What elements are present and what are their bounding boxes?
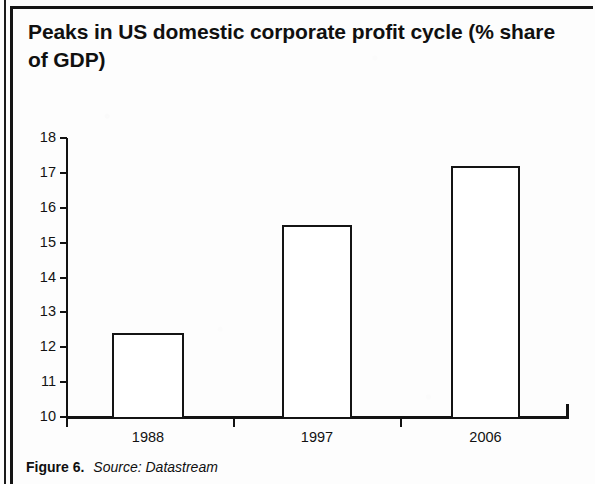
y-axis-tick-label: 13 xyxy=(20,304,56,319)
x-axis-tick-mark xyxy=(66,417,68,427)
y-axis-line xyxy=(66,138,68,419)
y-axis-tick-label: 14 xyxy=(20,270,56,285)
figure-caption: Figure 6.Source: Datastream xyxy=(26,459,218,475)
x-axis-tick-mark xyxy=(233,417,235,427)
y-axis-tick-mark xyxy=(60,346,67,348)
y-axis-tick-label: 10 xyxy=(20,409,56,424)
figure-caption-source: Source: Datastream xyxy=(93,459,218,475)
bar-1988 xyxy=(112,333,184,419)
bar-2006 xyxy=(451,166,520,419)
y-axis-tick-label: 12 xyxy=(20,339,56,354)
x-axis-tick-mark xyxy=(400,417,402,427)
y-axis-tick-mark xyxy=(60,172,67,174)
y-axis-tick-mark xyxy=(60,242,67,244)
x-axis-tick-label: 1997 xyxy=(277,429,357,445)
y-axis-tick-mark xyxy=(60,311,67,313)
y-axis-tick-mark xyxy=(60,381,67,383)
y-axis-tick-mark xyxy=(60,277,67,279)
y-axis-tick-mark xyxy=(60,137,67,139)
y-axis-tick-label: 15 xyxy=(20,235,56,250)
y-axis-tick-label: 18 xyxy=(20,130,56,145)
chart-plot-area: 101112131415161718 198819972006 xyxy=(0,0,595,484)
figure-panel: Peaks in US domestic corporate profit cy… xyxy=(0,0,595,484)
y-axis-tick-mark xyxy=(60,207,67,209)
y-axis-tick-label: 16 xyxy=(20,200,56,215)
y-axis-tick-label: 17 xyxy=(20,165,56,180)
x-axis-end-cap xyxy=(566,404,569,418)
bar-1997 xyxy=(282,225,352,419)
x-axis-tick-label: 2006 xyxy=(446,429,526,445)
x-axis-tick-label: 1988 xyxy=(108,429,188,445)
y-axis-tick-label: 11 xyxy=(20,374,56,389)
figure-caption-label: Figure 6. xyxy=(26,459,84,475)
